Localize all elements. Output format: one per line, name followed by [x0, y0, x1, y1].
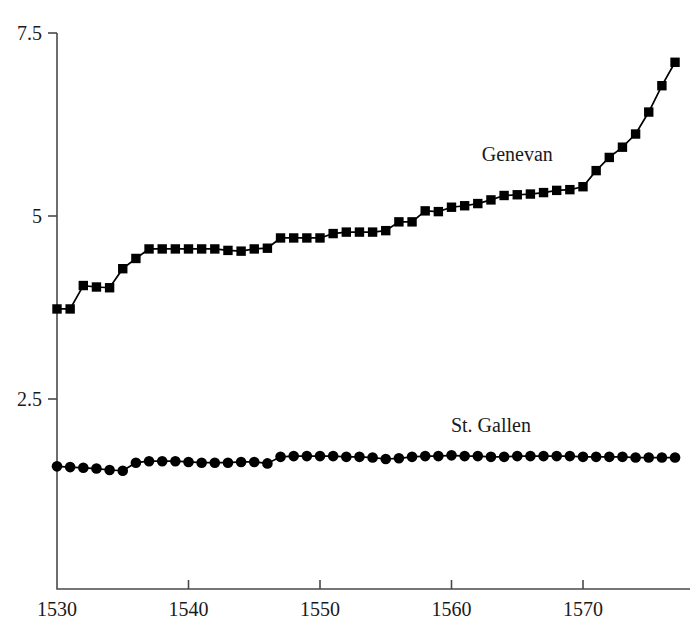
data-point: [578, 182, 587, 191]
series-annotations: GenevanSt. Gallen: [451, 143, 553, 436]
data-point: [65, 462, 76, 473]
data-point: [421, 206, 430, 215]
data-point: [473, 451, 484, 462]
data-point: [131, 254, 140, 263]
data-point: [643, 452, 654, 463]
data-point: [657, 81, 666, 90]
data-point: [315, 451, 326, 462]
data-point: [118, 264, 127, 273]
data-point: [578, 452, 589, 463]
data-point: [605, 153, 614, 162]
data-point: [368, 227, 377, 236]
data-point: [65, 304, 74, 313]
data-point: [526, 189, 535, 198]
data-point: [355, 227, 364, 236]
data-point: [486, 195, 495, 204]
data-point: [236, 246, 245, 255]
data-point: [381, 226, 390, 235]
data-point: [538, 451, 549, 462]
data-point: [407, 452, 418, 463]
data-point: [551, 451, 562, 462]
data-point: [434, 207, 443, 216]
data-point: [604, 452, 615, 463]
data-point: [591, 452, 602, 463]
x-tick-label-1540: 1540: [169, 598, 209, 620]
data-point: [512, 451, 523, 462]
data-point: [52, 304, 61, 313]
data-point: [183, 457, 194, 468]
data-point: [539, 188, 548, 197]
data-point: [513, 190, 522, 199]
data-point: [394, 217, 403, 226]
data-point: [354, 452, 365, 463]
data-point: [630, 452, 641, 463]
y-tick-label-5: 5: [32, 205, 42, 227]
data-point: [263, 244, 272, 253]
data-point: [104, 465, 115, 476]
data-point: [407, 217, 416, 226]
data-point: [420, 451, 431, 462]
data-point: [79, 281, 88, 290]
data-point: [460, 201, 469, 210]
data-point: [486, 452, 497, 463]
axis-lines: [57, 33, 690, 589]
data-point: [288, 451, 299, 462]
data-point: [91, 463, 102, 474]
data-point: [210, 244, 219, 253]
data-point: [446, 450, 457, 461]
data-point: [499, 191, 508, 200]
x-tick-label-1560: 1560: [432, 598, 472, 620]
data-point: [210, 457, 221, 468]
series-label-genevan: Genevan: [482, 143, 553, 165]
data-point: [184, 244, 193, 253]
data-point: [249, 457, 260, 468]
x-tick-label-1530: 1530: [37, 598, 77, 620]
data-point: [473, 199, 482, 208]
data-point: [78, 463, 89, 474]
data-point: [631, 129, 640, 138]
data-point: [342, 227, 351, 236]
x-tick-label-1570: 1570: [563, 598, 603, 620]
series-st-gallen: [52, 450, 681, 476]
data-point: [302, 451, 313, 462]
x-tick-label-1550: 1550: [300, 598, 340, 620]
data-point: [262, 458, 273, 469]
data-point: [459, 451, 470, 462]
data-point: [223, 246, 232, 255]
data-point: [302, 233, 311, 242]
data-point: [380, 454, 391, 465]
data-point: [328, 451, 339, 462]
data-point: [171, 244, 180, 253]
data-point: [105, 283, 114, 292]
data-point: [144, 244, 153, 253]
data-point: [617, 452, 628, 463]
data-point: [52, 461, 63, 472]
data-point: [565, 451, 576, 462]
data-point: [289, 233, 298, 242]
data-point: [565, 185, 574, 194]
y-tick-label-2.5: 2.5: [17, 388, 42, 410]
line-chart: 2.557.5 15301540155015601570 GenevanSt. …: [0, 0, 699, 631]
data-point: [499, 452, 510, 463]
y-tick-label-7.5: 7.5: [17, 22, 42, 44]
tick-marks: [48, 33, 583, 589]
data-point: [170, 456, 181, 467]
data-point: [157, 456, 168, 467]
data-point: [236, 457, 247, 468]
data-point: [223, 457, 234, 468]
data-point: [250, 244, 259, 253]
data-point: [328, 229, 337, 238]
data-point: [591, 166, 600, 175]
data-point: [394, 453, 405, 464]
data-point: [92, 282, 101, 291]
data-point: [525, 451, 536, 462]
data-series: [52, 58, 681, 476]
data-point: [552, 186, 561, 195]
data-point: [644, 107, 653, 116]
data-point: [158, 244, 167, 253]
y-tick-labels: 2.557.5: [17, 22, 42, 410]
chart-container: 2.557.5 15301540155015601570 GenevanSt. …: [0, 0, 699, 631]
data-point: [117, 465, 128, 476]
data-point: [657, 452, 668, 463]
data-point: [670, 452, 681, 463]
